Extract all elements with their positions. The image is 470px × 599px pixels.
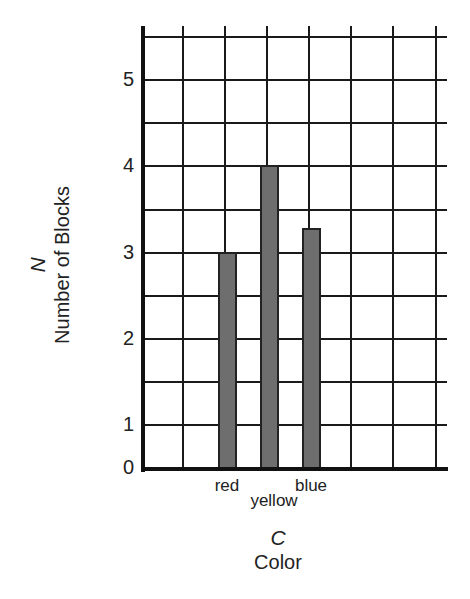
bar-blue (302, 228, 321, 469)
gridline-h (143, 338, 447, 340)
gridline-h (143, 209, 447, 211)
gridline-h (143, 165, 447, 167)
y-tick-label: 3 (110, 241, 134, 264)
gridline-h (143, 79, 447, 81)
gridline-v (182, 26, 184, 470)
y-tick-label: 5 (110, 68, 134, 91)
bar-red (218, 252, 237, 469)
gridline-h (143, 424, 447, 426)
y-axis-title: N Number of Blocks (26, 165, 74, 365)
chart: 0 1 2 3 4 5 red yellow blue C Color N Nu… (0, 0, 470, 599)
y-tick-label: 2 (110, 327, 134, 350)
y-tick-label: 1 (110, 413, 134, 436)
gridline-h (143, 252, 447, 254)
y-axis-label: Number of Blocks (50, 165, 74, 365)
bar-yellow (260, 165, 279, 469)
gridline-v (350, 26, 352, 470)
gridline-h (143, 36, 447, 38)
y-axis (141, 26, 145, 472)
x-axis (141, 467, 448, 471)
y-axis-variable: N (26, 165, 50, 365)
y-tick-label: 4 (110, 154, 134, 177)
gridline-h (143, 381, 447, 383)
gridline-h (143, 122, 447, 124)
gridline-v (435, 26, 437, 470)
gridline-v (392, 26, 394, 470)
x-label-blue: blue (271, 476, 351, 496)
x-axis-title: Color (228, 551, 328, 574)
gridline-h (143, 295, 447, 297)
y-tick-label: 0 (110, 456, 134, 479)
x-axis-variable: C (228, 526, 328, 550)
